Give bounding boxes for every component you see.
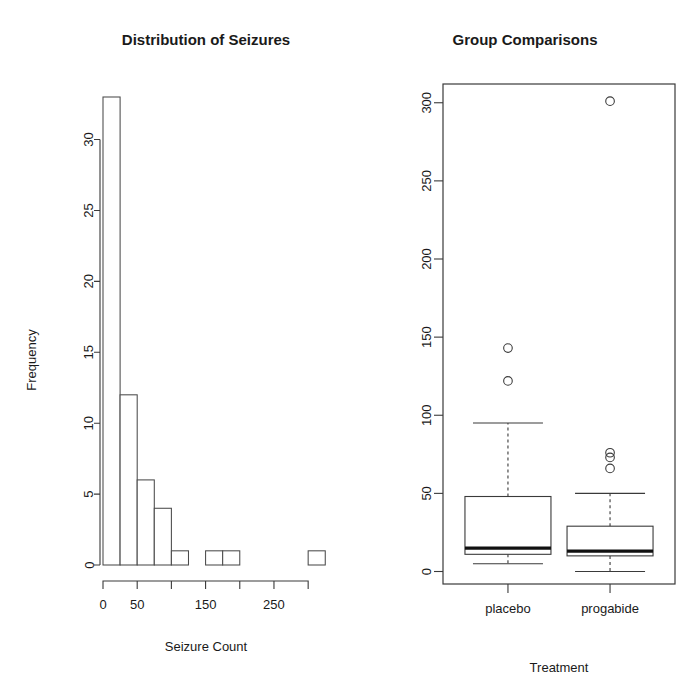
histogram-x-axis-label: Seizure Count	[165, 639, 248, 654]
boxplot-title: Group Comparisons	[452, 31, 597, 48]
boxplot-y-tick-label: 250	[419, 170, 434, 192]
boxplot-y-tick-label: 100	[419, 404, 434, 426]
histogram-x-tick-label: 150	[195, 597, 217, 612]
boxplot-y-axis: 050100150200250300	[419, 92, 444, 575]
boxplot-x-tick-label: placebo	[485, 601, 531, 616]
boxplot-y-tick-label: 200	[419, 248, 434, 270]
boxplot-x-tick-label: progabide	[581, 601, 639, 616]
histogram-y-axis: 051015202530 Frequency	[24, 132, 100, 568]
histogram-x-tick-label: 50	[130, 597, 144, 612]
histogram-bar	[171, 551, 188, 565]
boxplot-boxes	[465, 97, 653, 572]
histogram-y-tick-label: 30	[82, 132, 97, 146]
histogram-y-tick-label: 20	[82, 274, 97, 288]
boxplot-outlier	[504, 344, 513, 353]
boxplot-x-axis-label: Treatment	[530, 660, 589, 675]
boxplot-outlier	[606, 464, 615, 473]
histogram-x-tick-label: 250	[263, 597, 285, 612]
histogram-bars	[103, 97, 325, 565]
histogram-bar	[103, 97, 120, 565]
histogram-title: Distribution of Seizures	[122, 31, 290, 48]
histogram-y-tick-label: 15	[82, 345, 97, 359]
boxplot-box-group	[567, 97, 653, 572]
histogram-x-tick-label: 0	[99, 597, 106, 612]
boxplot-y-tick-label: 150	[419, 326, 434, 348]
histogram-y-tick-label: 5	[82, 490, 97, 497]
histogram-panel: Distribution of Seizures 051015202530 Fr…	[0, 0, 360, 690]
boxplot-outlier	[504, 377, 513, 386]
boxplot-panel: Group Comparisons 050100150200250300 pla…	[360, 0, 697, 690]
boxplot-svg: Group Comparisons 050100150200250300 pla…	[360, 0, 697, 690]
histogram-bar	[223, 551, 240, 565]
histogram-svg: Distribution of Seizures 051015202530 Fr…	[0, 0, 360, 690]
histogram-bar	[137, 480, 154, 565]
histogram-y-tick-label: 0	[82, 561, 97, 568]
boxplot-y-tick-label: 50	[419, 486, 434, 500]
histogram-x-axis: 050150250 Seizure Count	[99, 581, 308, 654]
boxplot-x-axis: placeboprogabide Treatment	[485, 584, 639, 675]
histogram-bar	[308, 551, 325, 565]
boxplot-box-group	[465, 344, 551, 564]
histogram-bar	[206, 551, 223, 565]
boxplot-box	[465, 497, 551, 555]
histogram-y-tick-label: 10	[82, 416, 97, 430]
histogram-y-tick-label: 25	[82, 203, 97, 217]
boxplot-y-tick-label: 300	[419, 92, 434, 114]
histogram-y-axis-label: Frequency	[24, 329, 39, 391]
histogram-bar	[120, 395, 137, 565]
boxplot-outlier	[606, 97, 615, 106]
histogram-bar	[154, 508, 171, 565]
boxplot-y-tick-label: 0	[419, 568, 434, 575]
